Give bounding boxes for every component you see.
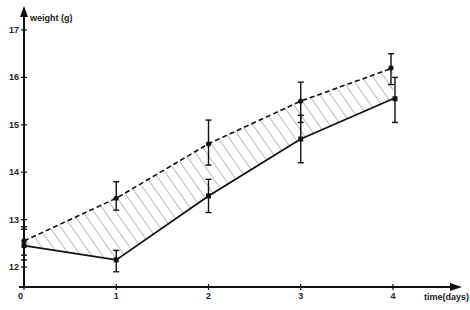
x-tick-label: 0: [18, 291, 23, 301]
data-point-square-icon: [206, 193, 211, 198]
y-axis-arrow-icon: [20, 6, 28, 17]
data-point-square-icon: [393, 96, 398, 101]
y-tick-label: 15: [9, 120, 19, 130]
x-tick-label: 1: [114, 291, 119, 301]
data-point-circle-icon: [388, 65, 393, 70]
x-axis-arrow-icon: [450, 283, 462, 291]
data-point-circle-icon: [206, 141, 211, 146]
x-tick-label: 4: [391, 291, 396, 301]
data-point-square-icon: [114, 257, 119, 262]
y-tick-label: 17: [9, 25, 19, 35]
y-axis-title: weight (g): [29, 13, 73, 23]
line-chart: weight (g) time(days) 12131415161701234: [0, 0, 470, 310]
y-tick-label: 12: [9, 262, 19, 272]
data-point-square-icon: [298, 137, 303, 142]
data-point-square-icon: [22, 243, 27, 248]
x-axis-title: time(days): [424, 292, 469, 302]
data-point-circle-icon: [298, 99, 303, 104]
y-tick-label: 14: [9, 167, 19, 177]
x-tick-label: 3: [298, 291, 303, 301]
y-tick-label: 16: [9, 72, 19, 82]
data-point-circle-icon: [114, 196, 119, 201]
x-tick-label: 2: [206, 291, 211, 301]
y-tick-label: 13: [9, 215, 19, 225]
